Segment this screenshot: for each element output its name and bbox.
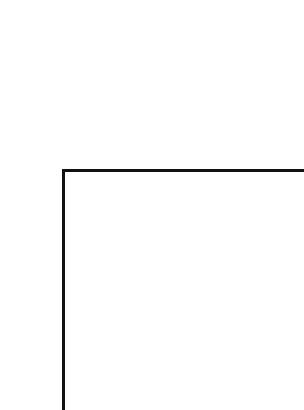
corner-horizontal-line [62, 169, 304, 172]
blank-canvas [0, 0, 304, 410]
corner-vertical-line [62, 169, 65, 410]
